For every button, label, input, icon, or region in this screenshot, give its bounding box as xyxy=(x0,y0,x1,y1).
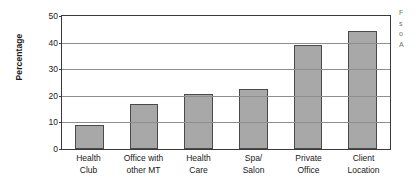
plot-area: 01020304050 xyxy=(61,15,391,150)
side-caption-line: F xyxy=(399,8,416,19)
bar-slot xyxy=(226,16,281,149)
x-axis-label-line: Office with xyxy=(116,153,171,165)
x-axis-label-line: Health xyxy=(61,153,116,165)
gridline xyxy=(62,43,390,44)
x-axis-label-line: Health xyxy=(171,153,226,165)
x-axis-label-line: Salon xyxy=(226,165,281,177)
y-axis-title: Percentage xyxy=(14,12,24,102)
side-caption-cutoff: FsoA xyxy=(399,8,416,50)
x-axis-label-0: HealthClub xyxy=(61,153,116,176)
bar-slot xyxy=(281,16,336,149)
side-caption-line: s xyxy=(399,19,416,30)
x-axis-label-line: Spa/ xyxy=(226,153,281,165)
side-caption-line: o xyxy=(399,29,416,40)
bar[interactable] xyxy=(294,45,322,149)
x-axis-label-line: Location xyxy=(336,165,391,177)
x-axis-label-3: Spa/Salon xyxy=(226,153,281,176)
y-tick-mark xyxy=(59,43,62,44)
y-tick-label: 50 xyxy=(49,11,58,21)
x-axis-label-5: ClientLocation xyxy=(336,153,391,176)
y-tick-mark xyxy=(59,16,62,17)
x-axis-label-line: Private xyxy=(281,153,336,165)
bar-slot xyxy=(171,16,226,149)
y-tick-mark xyxy=(59,122,62,123)
bar-group xyxy=(62,16,390,149)
bar[interactable] xyxy=(130,104,158,149)
y-tick-label: 40 xyxy=(49,38,58,48)
bar-chart-figure: Percentage 01020304050 HealthClubOffice … xyxy=(0,0,416,192)
x-axis-label-2: HealthCare xyxy=(171,153,226,176)
gridline xyxy=(62,122,390,123)
y-tick-mark xyxy=(59,96,62,97)
bar[interactable] xyxy=(75,125,103,149)
y-tick-mark xyxy=(59,69,62,70)
gridline xyxy=(62,96,390,97)
bar-slot xyxy=(62,16,117,149)
y-tick-label: 0 xyxy=(53,144,58,154)
bar[interactable] xyxy=(239,89,267,149)
x-axis-label-line: Care xyxy=(171,165,226,177)
bar-slot xyxy=(117,16,172,149)
side-caption-line: A xyxy=(399,40,416,51)
x-axis-label-line: other MT xyxy=(116,165,171,177)
x-axis-label-line: Office xyxy=(281,165,336,177)
x-axis-label-line: Client xyxy=(336,153,391,165)
x-axis-label-1: Office withother MT xyxy=(116,153,171,176)
y-tick-mark xyxy=(59,149,62,150)
bar-slot xyxy=(335,16,390,149)
x-axis-label-line: Club xyxy=(61,165,116,177)
y-tick-label: 10 xyxy=(49,117,58,127)
y-tick-label: 20 xyxy=(49,91,58,101)
gridline xyxy=(62,69,390,70)
x-axis-label-4: PrivateOffice xyxy=(281,153,336,176)
y-tick-label: 30 xyxy=(49,64,58,74)
bar[interactable] xyxy=(348,31,376,149)
x-axis-labels: HealthClubOffice withother MTHealthCareS… xyxy=(61,153,391,176)
